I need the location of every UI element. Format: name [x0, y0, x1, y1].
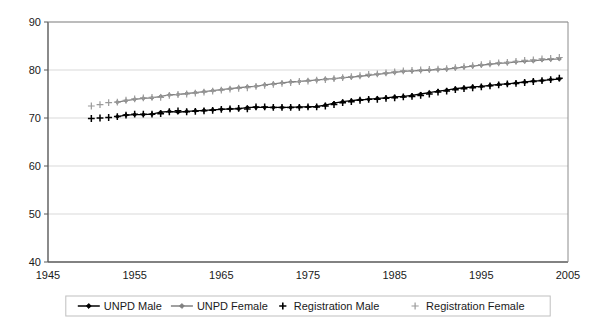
- x-tick-label-1995: 1995: [469, 269, 493, 281]
- y-tick-label-60: 60: [29, 160, 41, 172]
- y-tick-label-50: 50: [29, 208, 41, 220]
- x-tick-label-1975: 1975: [296, 269, 320, 281]
- y-tick-label-40: 40: [29, 256, 41, 268]
- x-tick-label-1965: 1965: [209, 269, 233, 281]
- life-expectancy-line-chart: 405060708090 194519551965197519851995200…: [0, 0, 598, 327]
- x-tick-label-1955: 1955: [122, 269, 146, 281]
- legend-label: Registration Male: [294, 300, 380, 312]
- x-tick-label-1945: 1945: [36, 269, 60, 281]
- chart-legend: UNPD MaleUNPD FemaleRegistration MaleReg…: [66, 296, 550, 316]
- x-tick-label-1985: 1985: [382, 269, 406, 281]
- x-tick-label-2005: 2005: [556, 269, 580, 281]
- legend-item-registration-female[interactable]: Registration Female: [412, 300, 525, 312]
- legend-label: Registration Female: [426, 300, 524, 312]
- chart-container: 405060708090 194519551965197519851995200…: [0, 0, 598, 327]
- y-tick-label-90: 90: [29, 16, 41, 28]
- legend-label: UNPD Male: [104, 300, 162, 312]
- legend-label: UNPD Female: [197, 300, 268, 312]
- y-tick-label-80: 80: [29, 64, 41, 76]
- y-tick-label-70: 70: [29, 112, 41, 124]
- legend-item-registration-male[interactable]: Registration Male: [279, 300, 379, 312]
